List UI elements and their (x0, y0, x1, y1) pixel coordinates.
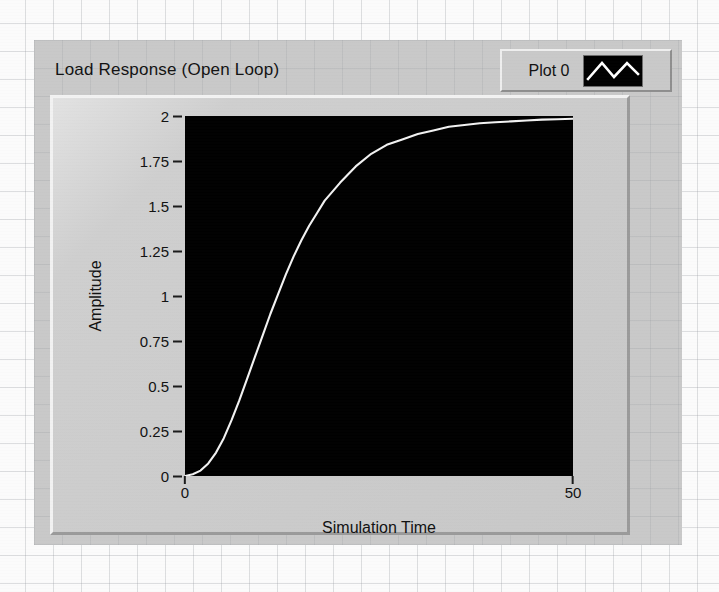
y-tick-0.25: 0.25 (140, 423, 182, 440)
x-tick-label: 50 (565, 484, 582, 501)
y-tick-mark (173, 385, 182, 387)
plot-trace-svg (185, 116, 573, 476)
y-tick-label: 1.25 (140, 243, 169, 260)
y-tick-1: 1 (161, 288, 182, 305)
y-tick-label: 2 (161, 108, 169, 125)
x-tick-0: 0 (181, 476, 189, 501)
y-tick-label: 0.75 (140, 333, 169, 350)
y-tick-0.75: 0.75 (140, 333, 182, 350)
plot-canvas[interactable] (185, 116, 573, 476)
x-tick-mark (184, 476, 186, 484)
y-tick-1.25: 1.25 (140, 243, 182, 260)
y-tick-0: 0 (161, 468, 182, 485)
y-tick-1.75: 1.75 (140, 153, 182, 170)
y-tick-mark (173, 340, 182, 342)
y-tick-label: 1.5 (148, 198, 169, 215)
x-axis-label: Simulation Time (322, 519, 436, 537)
y-tick-label: 1 (161, 288, 169, 305)
y-tick-label: 1.75 (140, 153, 169, 170)
y-tick-1.5: 1.5 (148, 198, 182, 215)
page-title: Load Response (Open Loop) (55, 60, 279, 80)
y-tick-label: 0 (161, 468, 169, 485)
plot-legend-label: Plot 0 (529, 62, 570, 80)
x-tick-mark (572, 476, 574, 484)
zigzag-line-icon[interactable] (583, 55, 643, 87)
x-tick-50: 50 (565, 476, 582, 501)
y-axis-label: Amplitude (87, 260, 105, 331)
y-tick-mark (173, 295, 182, 297)
y-axis-ticks: 00.250.50.7511.251.51.752 (110, 116, 182, 476)
y-tick-mark (173, 160, 182, 162)
y-tick-label: 0.5 (148, 378, 169, 395)
y-tick-mark (173, 250, 182, 252)
y-tick-0.5: 0.5 (148, 378, 182, 395)
x-tick-label: 0 (181, 484, 189, 501)
x-axis-ticks: 050 (185, 476, 575, 510)
y-tick-mark (173, 430, 182, 432)
y-tick-2: 2 (161, 108, 182, 125)
plot-legend[interactable]: Plot 0 (500, 49, 672, 92)
y-tick-mark (173, 115, 182, 117)
y-tick-label: 0.25 (140, 423, 169, 440)
y-tick-mark (173, 205, 182, 207)
plot-trace-plot0 (185, 119, 573, 476)
